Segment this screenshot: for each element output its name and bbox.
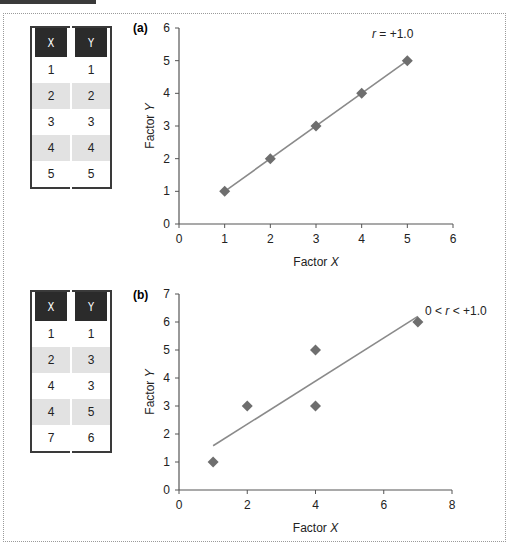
x-tick-label: 6 <box>450 232 457 246</box>
scatter-plots: 01234560123456(a)Factor XFactor Yr = +1.… <box>0 0 511 549</box>
trend-line <box>213 316 418 445</box>
x-tick-label: 6 <box>380 498 387 512</box>
y-tick-label: 2 <box>163 427 170 441</box>
data-point-diamond <box>219 186 230 197</box>
x-tick-label: 5 <box>404 232 411 246</box>
x-tick-label: 2 <box>267 232 274 246</box>
data-point-diamond <box>242 401 253 412</box>
x-axis-label: Factor X <box>293 255 339 269</box>
y-tick-label: 5 <box>163 343 170 357</box>
y-tick-label: 0 <box>163 217 170 231</box>
x-tick-label: 0 <box>176 498 183 512</box>
x-tick-label: 1 <box>221 232 228 246</box>
y-tick-label: 6 <box>163 21 170 35</box>
data-point-diamond <box>311 121 322 132</box>
x-tick-label: 8 <box>449 498 456 512</box>
x-tick-label: 0 <box>176 232 183 246</box>
data-point-diamond <box>402 55 413 66</box>
y-tick-label: 1 <box>163 184 170 198</box>
data-point-diamond <box>310 345 321 356</box>
data-point-diamond <box>310 401 321 412</box>
y-tick-label: 4 <box>163 86 170 100</box>
x-tick-label: 2 <box>244 498 251 512</box>
panel-label: (b) <box>133 288 148 302</box>
y-tick-label: 7 <box>163 287 170 301</box>
data-point-diamond <box>208 457 219 468</box>
data-point-diamond <box>265 153 276 164</box>
x-axis-label: Factor X <box>293 521 339 535</box>
y-tick-label: 2 <box>163 152 170 166</box>
x-tick-label: 3 <box>313 232 320 246</box>
y-tick-label: 6 <box>163 315 170 329</box>
y-tick-label: 1 <box>163 455 170 469</box>
y-tick-label: 3 <box>163 399 170 413</box>
data-point-diamond <box>356 88 367 99</box>
panel-label: (a) <box>133 21 148 35</box>
y-axis-label: Factor Y <box>143 102 157 148</box>
y-tick-label: 0 <box>163 483 170 497</box>
x-tick-label: 4 <box>358 232 365 246</box>
correlation-annotation: r = +1.0 <box>372 27 414 41</box>
y-tick-label: 3 <box>163 119 170 133</box>
y-tick-label: 5 <box>163 54 170 68</box>
correlation-annotation: 0 < r < +1.0 <box>425 304 487 318</box>
y-tick-label: 4 <box>163 371 170 385</box>
x-tick-label: 4 <box>312 498 319 512</box>
y-axis-label: Factor Y <box>143 368 157 414</box>
